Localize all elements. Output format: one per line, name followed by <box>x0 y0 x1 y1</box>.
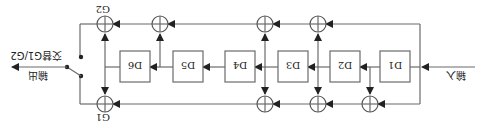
adder-icon <box>310 16 326 32</box>
register-label-d4: D4 <box>233 60 247 71</box>
register-label-d3: D3 <box>286 60 300 71</box>
g1-label: G1 <box>96 112 110 123</box>
adder-icon <box>362 96 378 112</box>
register-label-d5: D5 <box>181 60 195 71</box>
convolutional-encoder-diagram: D1 D2 D3 D4 D5 D6 输入 输出 交替G1/G2 G1 G2 <box>0 0 486 128</box>
adder-icon <box>97 16 113 32</box>
adder-icon <box>310 96 326 112</box>
adder-icon <box>152 16 168 32</box>
adder-icon <box>257 96 273 112</box>
register-label-d1: D1 <box>388 60 402 71</box>
input-label: 输入 <box>446 70 466 82</box>
output-label: 输出 <box>28 70 48 82</box>
adder-icon <box>257 16 273 32</box>
switch-note-label: 交替G1/G2 <box>10 50 62 62</box>
register-label-d6: D6 <box>128 60 142 71</box>
g2-label: G2 <box>96 4 110 15</box>
register-label-d2: D2 <box>338 60 352 71</box>
adder-icon <box>97 96 113 112</box>
